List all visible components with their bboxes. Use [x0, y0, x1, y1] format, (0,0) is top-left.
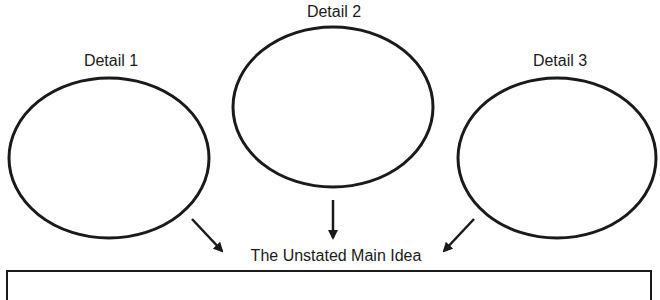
detail-3-label: Detail 3 — [533, 52, 587, 70]
arrow-detail-3 — [444, 219, 474, 251]
arrow-detail-1 — [192, 219, 222, 251]
main-idea-answer-box[interactable] — [6, 270, 652, 300]
detail-3-oval — [458, 78, 656, 238]
main-idea-label: The Unstated Main Idea — [251, 247, 422, 265]
detail-1-oval — [9, 78, 209, 238]
detail-2-oval — [233, 27, 433, 187]
detail-2-label: Detail 2 — [307, 3, 361, 21]
detail-1-label: Detail 1 — [84, 52, 138, 70]
